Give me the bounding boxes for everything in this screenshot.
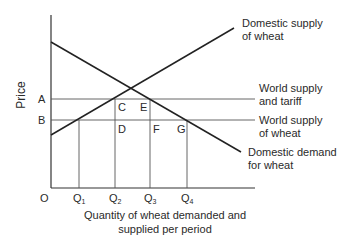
world-supply-label-line2: of wheat: [259, 127, 322, 140]
world-tariff-label-line1: World supply: [259, 82, 322, 95]
world-tariff-label-line2: and tariff: [259, 95, 322, 108]
y-axis-label: Price: [14, 78, 28, 112]
price-level-b: B: [38, 114, 45, 126]
point-c: C: [118, 101, 126, 113]
world-supply-tariff-label: World supply and tariff: [259, 82, 322, 108]
x-axis-label: Quantity of wheat demanded and supplied …: [75, 208, 255, 236]
q1-label: Q1: [73, 192, 85, 208]
domestic-supply-label: Domestic supply of wheat: [242, 17, 323, 43]
domestic-supply-label-line1: Domestic supply: [242, 17, 323, 30]
point-d: D: [118, 123, 126, 135]
point-g: G: [177, 123, 186, 135]
domestic-demand-label: Domestic demand for wheat: [248, 146, 337, 172]
point-f: F: [153, 123, 160, 135]
price-level-a: A: [38, 93, 45, 105]
domestic-supply-curve: [51, 28, 234, 135]
q2-label: Q2: [109, 192, 121, 208]
domestic-demand-label-line2: for wheat: [248, 159, 337, 172]
q4-label: Q4: [181, 192, 193, 208]
x-axis-label-line1: Quantity of wheat demanded and: [75, 208, 255, 222]
q3-label: Q3: [144, 192, 156, 208]
domestic-demand-label-line1: Domestic demand: [248, 146, 337, 159]
origin-label: O: [40, 192, 49, 204]
world-supply-label-line1: World supply: [259, 114, 322, 127]
world-supply-label: World supply of wheat: [259, 114, 322, 140]
domestic-supply-label-line2: of wheat: [242, 30, 323, 43]
x-axis-label-line2: supplied per period: [75, 222, 255, 236]
domestic-demand-curve: [51, 42, 241, 152]
point-e: E: [140, 101, 147, 113]
